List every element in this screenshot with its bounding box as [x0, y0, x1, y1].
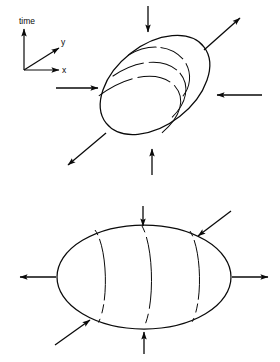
tilted-inner-arc-1 — [128, 30, 201, 107]
horizontal-meridian-3 — [190, 231, 200, 324]
time-axis-label: time — [19, 16, 35, 26]
horizontal-meridian-2 — [142, 226, 152, 329]
upper-arrow-lower-left-diagonal — [68, 133, 106, 165]
y-axis-label: y — [61, 37, 66, 47]
tilted-ellipsoid-panel — [56, 6, 262, 175]
tilted-inner-arc-3 — [99, 55, 193, 149]
tilted-ellipse-outline — [82, 15, 229, 154]
horizontal-ellipsoid-panel — [20, 206, 268, 354]
upper-arrow-upper-right-diagonal — [204, 18, 240, 50]
tilted-inner-arc-2 — [113, 42, 199, 130]
horizontal-meridian-1 — [95, 230, 105, 325]
lower-arrow-lower-left-diagonal — [55, 320, 90, 345]
x-axis-label: x — [62, 65, 67, 75]
coordinate-axes: time y x — [19, 16, 67, 75]
horizontal-ellipse-outline — [57, 225, 231, 329]
physics-deformation-diagram: time y x — [0, 0, 280, 362]
y-axis-line — [24, 48, 59, 70]
lower-arrow-upper-right-diagonal — [198, 211, 231, 236]
